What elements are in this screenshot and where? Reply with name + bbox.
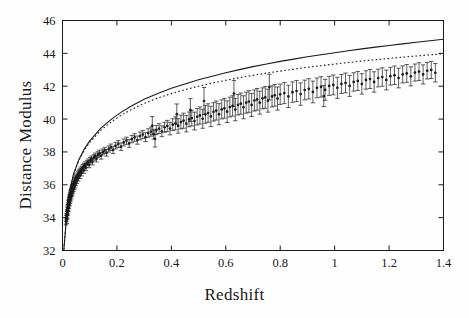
data-point [234, 108, 237, 111]
data-point [258, 101, 261, 104]
data-point [203, 100, 206, 103]
data-point [268, 86, 271, 89]
x-axis-tick-labels: 00.20.40.60.811.21.4 [59, 256, 452, 270]
data-point [332, 84, 335, 87]
data-point [253, 99, 256, 102]
data-point [117, 143, 120, 146]
data-point [68, 201, 71, 204]
data-point [105, 152, 108, 155]
x-tick-label: 1.2 [381, 256, 397, 270]
y-tick-label: 44 [43, 47, 56, 61]
y-axis-title: Distance Modulus [16, 35, 36, 255]
plot-canvas: 00.20.40.60.811.21.4 3234363840424446 [0, 0, 469, 318]
data-point [295, 90, 298, 93]
data-point [356, 80, 359, 83]
data-point [223, 107, 226, 110]
data-point [163, 126, 166, 129]
data-point [141, 133, 144, 136]
data-point [136, 139, 139, 142]
y-tick-label: 34 [43, 211, 56, 225]
data-point [352, 81, 355, 84]
data-point [98, 152, 101, 155]
y-tick-label: 40 [43, 113, 56, 127]
data-point [190, 117, 193, 120]
data-point [409, 75, 412, 78]
data-point [324, 88, 327, 91]
y-axis-ticks [63, 21, 444, 251]
data-point [85, 166, 88, 169]
data-point [287, 95, 290, 98]
data-point [283, 92, 286, 95]
data-point [303, 89, 306, 92]
data-point [152, 133, 155, 136]
data-point [218, 113, 221, 116]
data-point [139, 135, 142, 138]
data-point [155, 129, 158, 132]
data-point [261, 97, 264, 100]
data-point [107, 148, 110, 151]
data-point [80, 172, 83, 175]
data-point [182, 119, 185, 122]
data-point [91, 160, 94, 163]
x-tick-label: 0.6 [218, 256, 234, 270]
data-point [133, 136, 136, 139]
data-point [125, 139, 128, 142]
data-point [307, 87, 310, 90]
x-tick-label: 1 [332, 256, 338, 270]
data-point [237, 103, 240, 106]
data-point [248, 100, 251, 103]
data-point [69, 199, 72, 202]
data-point [209, 115, 212, 118]
x-axis-title: Redshift [0, 285, 469, 305]
data-errorbars [64, 61, 438, 224]
data-point [110, 146, 113, 149]
data-point [150, 130, 153, 133]
data-point [95, 157, 98, 160]
data-point [120, 145, 123, 148]
data-point [201, 117, 204, 120]
data-point [169, 127, 172, 130]
data-point [401, 73, 404, 76]
data-point [426, 69, 429, 72]
data-point [90, 158, 93, 161]
data-point [291, 91, 294, 94]
data-point [256, 98, 259, 101]
data-point [271, 95, 274, 98]
y-tick-label: 46 [43, 14, 56, 28]
data-point [389, 75, 392, 78]
data-point [100, 155, 103, 158]
data-point [361, 83, 364, 86]
data-point [264, 96, 267, 99]
data-point [154, 137, 157, 140]
data-point [158, 127, 161, 130]
data-point [344, 82, 347, 85]
data-point [174, 122, 177, 125]
x-tick-label: 0.4 [164, 256, 180, 270]
data-point [365, 79, 368, 82]
data-point [377, 77, 380, 80]
data-point [279, 93, 282, 96]
data-point [226, 110, 229, 113]
data-point [175, 113, 178, 116]
data-point [381, 76, 384, 79]
data-point [131, 138, 134, 141]
data-point [94, 155, 97, 158]
data-point [144, 136, 147, 139]
data-point [373, 81, 376, 84]
data-point [74, 181, 77, 184]
axes-frame [63, 21, 444, 251]
data-point [267, 99, 270, 102]
data-point [215, 109, 218, 112]
data-point [336, 87, 339, 90]
data-point [199, 114, 202, 117]
data-point [320, 86, 323, 89]
data-point [79, 174, 82, 177]
data-point [212, 110, 215, 113]
data-point [250, 104, 253, 107]
data-point [204, 113, 207, 116]
data-point [196, 115, 199, 118]
hubble-diagram-figure: 00.20.40.60.811.21.4 3234363840424446 Di… [0, 0, 469, 318]
x-tick-label: 1.4 [436, 256, 452, 270]
data-point [88, 163, 91, 166]
data-point [177, 125, 180, 128]
